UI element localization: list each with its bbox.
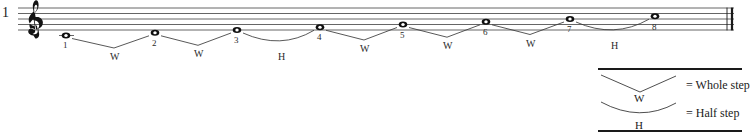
- legend-half-step-label: = Half step: [686, 107, 739, 119]
- notehead-1: [62, 33, 71, 39]
- notehead-2: [151, 30, 160, 36]
- legend-half-step-letter: H: [635, 120, 643, 131]
- legend: W H = Whole step = Half step: [596, 66, 744, 134]
- step-letter-6: W: [526, 39, 535, 49]
- step-letter-5: W: [443, 41, 452, 51]
- notehead-4: [316, 24, 325, 30]
- interval-bracket-vee-6-7: [492, 22, 564, 35]
- note-number-4: 4: [317, 33, 322, 42]
- interval-bracket-vee-4-5: [326, 28, 397, 41]
- note-number-6: 6: [483, 28, 488, 37]
- note-number-5: 5: [400, 31, 405, 40]
- step-letter-7: H: [611, 41, 618, 51]
- note-number-3: 3: [234, 36, 239, 45]
- legend-whole-step-letter: W: [634, 93, 644, 104]
- notehead-8: [651, 13, 660, 19]
- note-number-1: 1: [63, 41, 68, 50]
- legend-whole-step-vee: [601, 75, 676, 92]
- interval-bracket-vee-1-2: [72, 36, 149, 48]
- step-letter-3: H: [278, 52, 285, 62]
- note-number-8: 8: [652, 23, 657, 32]
- notehead-7: [566, 16, 575, 22]
- step-letter-1: W: [110, 52, 119, 62]
- note-number-2: 2: [152, 39, 157, 48]
- interval-bracket-vee-5-6: [409, 25, 480, 37]
- notehead-6: [482, 19, 491, 25]
- step-letter-2: W: [194, 49, 203, 59]
- notehead-5: [399, 22, 408, 28]
- legend-whole-step-label: = Whole step: [686, 79, 750, 91]
- legend-graphics: [596, 66, 744, 134]
- staff-lines: [18, 8, 734, 30]
- treble-clef-icon: [28, 0, 43, 38]
- note-number-7: 7: [567, 25, 572, 34]
- step-letter-4: W: [360, 44, 369, 54]
- interval-bracket-vee-2-3: [161, 33, 231, 45]
- notehead-3: [233, 27, 242, 33]
- interval-bracket-curve-3-4: [243, 30, 314, 41]
